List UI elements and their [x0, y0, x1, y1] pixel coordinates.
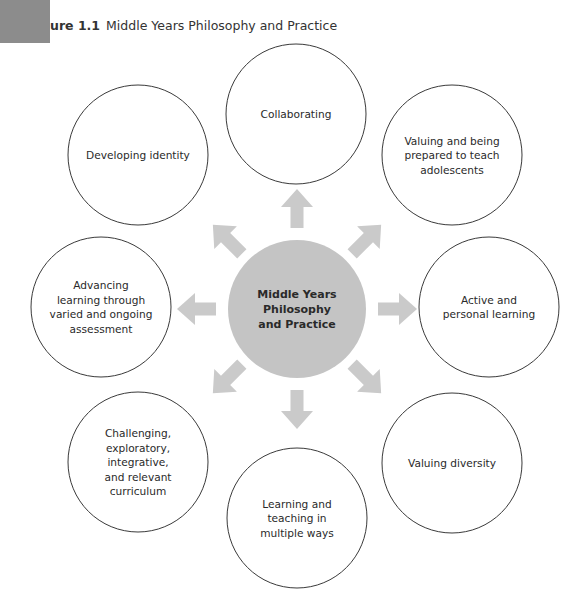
node-label-line: Advancing [73, 279, 128, 291]
arrow-up [281, 189, 313, 228]
node-label-line: Active and [461, 294, 517, 306]
center-label-line: and Practice [258, 318, 335, 331]
concept-diagram: Middle YearsPhilosophyand Practice Colla… [0, 0, 582, 615]
arrow-up-left-icon [202, 214, 254, 266]
node-label-line: varied and ongoing [50, 308, 153, 320]
node-challenging-curriculum: Challenging,exploratory,integrative,and … [68, 392, 208, 532]
node-label-line: personal learning [443, 308, 535, 320]
node-label-line: Valuing diversity [408, 457, 496, 469]
node-label: Collaborating [261, 108, 332, 120]
node-label-line: Collaborating [261, 108, 332, 120]
node-label-line: assessment [70, 323, 133, 335]
node-valuing-adolescents: Valuing and beingprepared to teachadoles… [382, 85, 522, 225]
arrow-right [378, 293, 417, 325]
node-label: Valuing diversity [408, 457, 496, 469]
center-node: Middle YearsPhilosophyand Practice [228, 240, 366, 378]
node-developing-identity: Developing identity [68, 85, 208, 225]
arrow-down [281, 390, 313, 429]
node-label-line: adolescents [420, 164, 483, 176]
arrow-up-left [202, 214, 254, 266]
node-label-line: integrative, [107, 456, 168, 468]
node-label-line: teaching in [267, 512, 326, 524]
node-valuing-diversity: Valuing diversity [382, 393, 522, 533]
arrow-left-icon [177, 293, 216, 325]
node-label-line: learning through [57, 294, 145, 306]
node-circle [419, 237, 559, 377]
node-label-line: curriculum [110, 485, 167, 497]
node-label-line: and relevant [104, 471, 171, 483]
arrow-up-right-icon [341, 214, 393, 266]
node-advancing-assessment: Advancinglearning throughvaried and ongo… [31, 237, 171, 377]
arrow-up-icon [281, 189, 313, 228]
node-label-line: Developing identity [86, 149, 190, 161]
node-label-line: exploratory, [106, 442, 170, 454]
arrow-right-icon [378, 293, 417, 325]
arrow-down-left-icon [202, 353, 254, 405]
arrow-up-right [341, 214, 393, 266]
node-circle [31, 237, 171, 377]
node-active-personal-learning: Active andpersonal learning [419, 237, 559, 377]
center-label: Middle YearsPhilosophyand Practice [257, 288, 337, 331]
arrow-down-icon [281, 390, 313, 429]
node-label: Developing identity [86, 149, 190, 161]
node-label: Learning andteaching inmultiple ways [260, 498, 334, 539]
arrow-down-left [202, 353, 254, 405]
node-label-line: Learning and [262, 498, 331, 510]
center-label-line: Middle Years [257, 288, 337, 301]
node-label-line: prepared to teach [404, 149, 499, 161]
node-label-line: multiple ways [260, 527, 334, 539]
arrow-down-right-icon [341, 353, 393, 405]
node-collaborating: Collaborating [226, 44, 366, 184]
arrow-down-right [341, 353, 393, 405]
node-label-line: Challenging, [105, 427, 171, 439]
node-label: Challenging,exploratory,integrative,and … [104, 427, 171, 497]
node-learning-teaching-multiple-ways: Learning andteaching inmultiple ways [227, 448, 367, 588]
center-label-line: Philosophy [263, 303, 331, 316]
node-label-line: Valuing and being [404, 135, 499, 147]
arrow-left [177, 293, 216, 325]
